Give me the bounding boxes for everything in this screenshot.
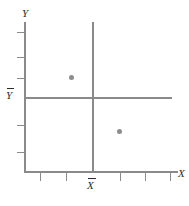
x-axis-tick [145,173,146,181]
x-axis-tick [120,173,121,181]
y-axis-tick [17,152,25,153]
x-axis-label: X [178,168,185,179]
x-mean-label-text: X [87,180,96,191]
y-axis-tick [17,78,25,79]
data-point [69,75,74,80]
y-axis-tick [17,57,25,58]
x-axis-line [24,171,178,173]
x-axis-tick [40,173,41,181]
y-mean-label: Y [6,88,14,101]
x-mean-reference-line [92,22,94,173]
y-axis-label: Y [22,8,28,19]
x-mean-label: X [87,178,96,191]
y-axis-tick [17,125,25,126]
y-mean-label-text: Y [6,90,14,101]
x-axis-tick [66,173,67,181]
y-mean-reference-line [24,97,172,99]
y-axis-tick [17,32,25,33]
data-point [117,129,122,134]
x-axis-tick [170,173,171,181]
scatter-plot-figure: Y X Y X [0,0,189,206]
